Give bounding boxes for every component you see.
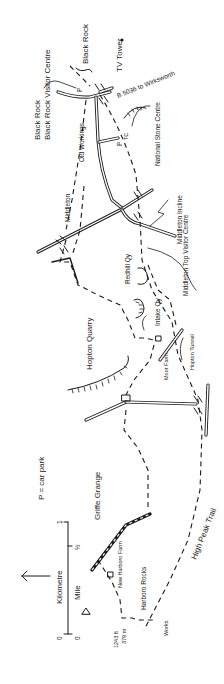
label-moor-farm: Moor Farm: [163, 353, 169, 380]
toilets-icon: TC: [123, 133, 129, 140]
label-b5036: B 5036 to Wirksworth: [116, 69, 176, 99]
scale-mile-zero: 0: [74, 636, 81, 640]
label-griffe-grange: Griffe Grange: [93, 471, 102, 520]
label-works: Works: [163, 620, 169, 636]
moor-farm-building-icon: [156, 336, 161, 341]
label-middleton-village: Middleton: [64, 193, 71, 222]
label-spot-height-ft: 1243 ft: [113, 631, 119, 648]
walking-route-map: Black Rock Black Rock Visitor Centre Bla…: [0, 0, 224, 684]
label-car-park-key: P = car park: [37, 456, 46, 500]
label-kilometre: Kilometre: [55, 570, 64, 604]
scale-mile-half: ½: [74, 544, 81, 550]
label-black-rock: Black Rock: [81, 23, 90, 64]
label-old-workings: Old Workings: [78, 122, 86, 162]
label-hopton-quarry: Hopton Quarry: [85, 318, 94, 370]
label-intake-qy: Intake Qy: [154, 297, 162, 326]
label-new-harboro-farm: New Harboro Farm: [117, 541, 123, 588]
spot-height-triangle-icon: [82, 608, 90, 614]
black-rock-outcrop: [76, 68, 92, 72]
label-hopton-tunnel: Hopton Tunnel: [189, 334, 195, 370]
label-redhill-qy: Redhill Qy: [124, 253, 132, 284]
scale-km-one: 1: [56, 520, 63, 524]
label-harboro-rocks: Harboro Rocks: [140, 566, 147, 610]
north-arrow-icon: [22, 571, 50, 581]
scale-km-zero: 0: [56, 636, 63, 640]
scale-bar: [64, 522, 72, 634]
label-spot-height-m: 379 m: [121, 628, 127, 644]
middleton-lane: [72, 186, 84, 256]
label-tv-tower: TV Tower: [115, 38, 124, 72]
label-black-rock-visitor-centre: Black Rock Visitor Centre: [43, 49, 52, 140]
labels: Black Rock Black Rock Visitor Centre Bla…: [33, 23, 218, 648]
label-national-stone-centre: National Stone Centre: [154, 102, 161, 166]
label-middleton-top-visitor-centre: Middleton Top Visitor Centre: [182, 214, 190, 296]
car-park-icon: P: [116, 142, 123, 146]
label-black-rock-visitor-centre-line1: Black Rock: [33, 99, 42, 140]
car-park-icon: P: [76, 88, 83, 92]
label-mile: Mile: [73, 585, 82, 600]
